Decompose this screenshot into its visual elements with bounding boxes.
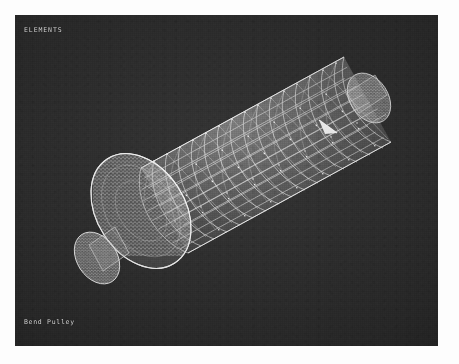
- mesh-wireframe-svg: [15, 15, 438, 346]
- plot-title-label: Bend Pulley: [24, 318, 75, 326]
- screenshot-root: ELEMENTS Bend Pulley: [0, 0, 459, 364]
- bend-pulley-mesh-model: [15, 15, 438, 346]
- plot-header-label: ELEMENTS: [24, 26, 63, 34]
- fea-viewport[interactable]: ELEMENTS Bend Pulley: [15, 15, 438, 346]
